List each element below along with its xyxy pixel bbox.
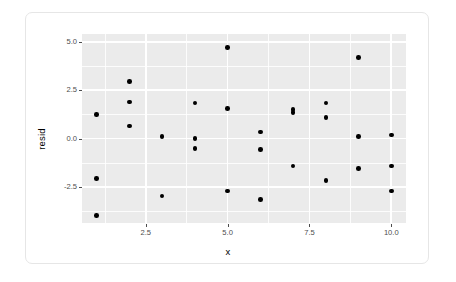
x-tick-mark [391,224,392,227]
scatter-point [94,213,99,218]
scatter-point [258,197,263,202]
scatter-point [193,136,198,141]
scatter-point [291,110,296,115]
gridline-minor-vertical [186,34,187,223]
scatter-point [193,101,198,106]
y-tick-label: 5.0 [51,37,77,46]
gridline-minor-vertical [350,34,351,223]
scatter-point [225,45,230,50]
y-tick-label: 2.5 [51,85,77,94]
scatter-point [160,194,165,199]
gridline-major-horizontal [82,186,406,188]
x-tick-mark [146,224,147,227]
x-tick-label: 10.0 [376,228,406,237]
gridline-major-vertical [227,34,229,223]
scatter-point [356,134,361,139]
scatter-point [127,124,132,129]
gridline-minor-horizontal [82,66,406,67]
scatter-point [291,164,296,169]
gridline-minor-vertical [105,34,106,223]
scatter-point [127,79,132,84]
scatter-point [94,112,99,117]
scatter-point [225,189,230,194]
scatter-point [324,101,329,106]
scatter-point [127,100,132,105]
scatter-point [389,164,394,169]
y-tick-label: 0.0 [51,134,77,143]
gridline-major-horizontal [82,89,406,91]
scatter-point [324,178,329,183]
scatter-point [389,189,394,194]
scatter-point [356,166,361,171]
scatter-point [225,106,230,111]
scatter-point [258,147,263,152]
plot-panel [82,34,406,223]
scatter-point [193,146,198,151]
y-axis-title: resid [36,128,47,150]
x-tick-label: 7.5 [294,228,324,237]
residual-scatter-plot: resid x 5.02.50.0-2.5 2.55.07.510.0 [26,13,430,265]
gridline-minor-horizontal [82,114,406,115]
x-axis-title: x [26,246,430,257]
scatter-point [94,176,99,181]
x-tick-mark [309,224,310,227]
gridline-major-vertical [390,34,392,223]
x-tick-label: 2.5 [131,228,161,237]
gridline-minor-horizontal [82,163,406,164]
scatter-point [324,115,329,120]
gridline-major-horizontal [82,41,406,43]
gridline-major-vertical [309,34,311,223]
scatter-point [258,130,263,135]
gridline-minor-horizontal [82,211,406,212]
scatter-point [389,133,394,138]
x-tick-label: 5.0 [213,228,243,237]
gridline-minor-vertical [268,34,269,223]
y-tick-label: -2.5 [51,182,77,191]
scatter-point [356,55,361,60]
gridline-major-vertical [145,34,147,223]
chart-card: resid x 5.02.50.0-2.5 2.55.07.510.0 [25,12,429,264]
x-tick-mark [228,224,229,227]
